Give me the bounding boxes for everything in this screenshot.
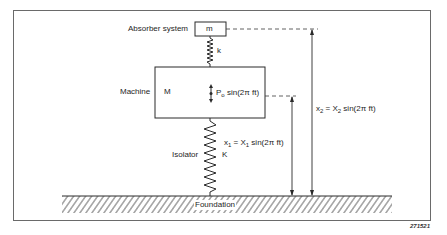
machine-label: Machine bbox=[120, 87, 150, 97]
x2-mid: = X bbox=[323, 104, 337, 113]
absorber-spring-icon bbox=[207, 36, 213, 67]
force-arrow-icon bbox=[209, 84, 213, 103]
x2-equation: x2 = X2 sin(2π ft) bbox=[316, 104, 376, 114]
x1-rhs: sin(2π ft) bbox=[249, 138, 283, 147]
x1-displacement-arrow bbox=[290, 96, 294, 196]
x2-rhs: sin(2π ft) bbox=[341, 104, 375, 113]
foundation-label: Foundation bbox=[194, 200, 236, 210]
machine-mass-label: M bbox=[164, 87, 171, 97]
isolator-label: Isolator bbox=[172, 150, 198, 160]
force-expression: sin(2π ft) bbox=[225, 88, 259, 97]
figure-id: 271521 bbox=[410, 223, 430, 229]
absorber-system-label: Absorber system bbox=[128, 24, 188, 34]
absorber-spring-label: k bbox=[217, 46, 221, 56]
absorber-mass-label: m bbox=[206, 24, 213, 34]
isolator-spring-icon bbox=[204, 118, 216, 196]
x1-equation: x1 = X1 sin(2π ft) bbox=[224, 138, 284, 148]
isolator-spring-label: K bbox=[222, 150, 227, 160]
force-label: Po sin(2π ft) bbox=[216, 88, 259, 98]
x1-mid: = X bbox=[231, 138, 245, 147]
x2-displacement-arrow bbox=[310, 29, 314, 196]
